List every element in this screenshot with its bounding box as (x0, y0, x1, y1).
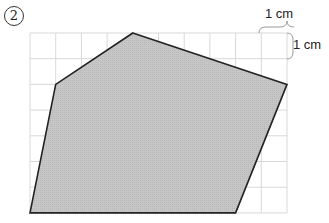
horizontal-scale-label: 1 cm (265, 6, 293, 21)
pentagon-shape (30, 33, 287, 213)
grid-figure (0, 0, 329, 223)
vertical-scale-label: 1 cm (293, 37, 321, 52)
horizontal-brace-icon (259, 21, 294, 33)
